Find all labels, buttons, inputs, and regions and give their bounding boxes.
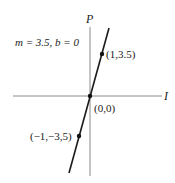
- point-label-1-3.5: (1,3.5): [106, 48, 136, 61]
- i-axis-label: I: [163, 89, 169, 103]
- point-label-origin: (0,0): [94, 102, 115, 115]
- point-1-3.5: [100, 52, 104, 56]
- point-label-neg1-neg3.5: (−1,−3,5): [30, 130, 72, 143]
- point-neg1-neg3.5: [77, 134, 81, 138]
- p-axis-label: P: [85, 12, 94, 26]
- equation-label: m = 3.5, b = 0: [15, 36, 80, 48]
- line-plot: [69, 28, 109, 173]
- linear-graph: I P m = 3.5, b = 0 (1,3.5) (0,0) (−1,−3,…: [0, 0, 175, 183]
- point-origin: [88, 94, 92, 98]
